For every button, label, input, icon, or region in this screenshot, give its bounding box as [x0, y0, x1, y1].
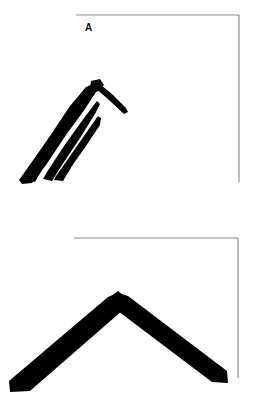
panel-a-strokes	[19, 79, 128, 184]
panel-b: B	[0, 225, 256, 409]
panel-b-strokes	[9, 291, 228, 392]
chevron-b-left-arm	[9, 293, 131, 392]
panel-b-figure	[0, 225, 256, 409]
panel-a-label: A	[85, 23, 92, 33]
figure-page: A B	[0, 0, 256, 409]
chevron-b-right-arm	[106, 293, 228, 383]
panel-a-figure	[0, 0, 256, 205]
panel-a: A	[0, 0, 256, 205]
